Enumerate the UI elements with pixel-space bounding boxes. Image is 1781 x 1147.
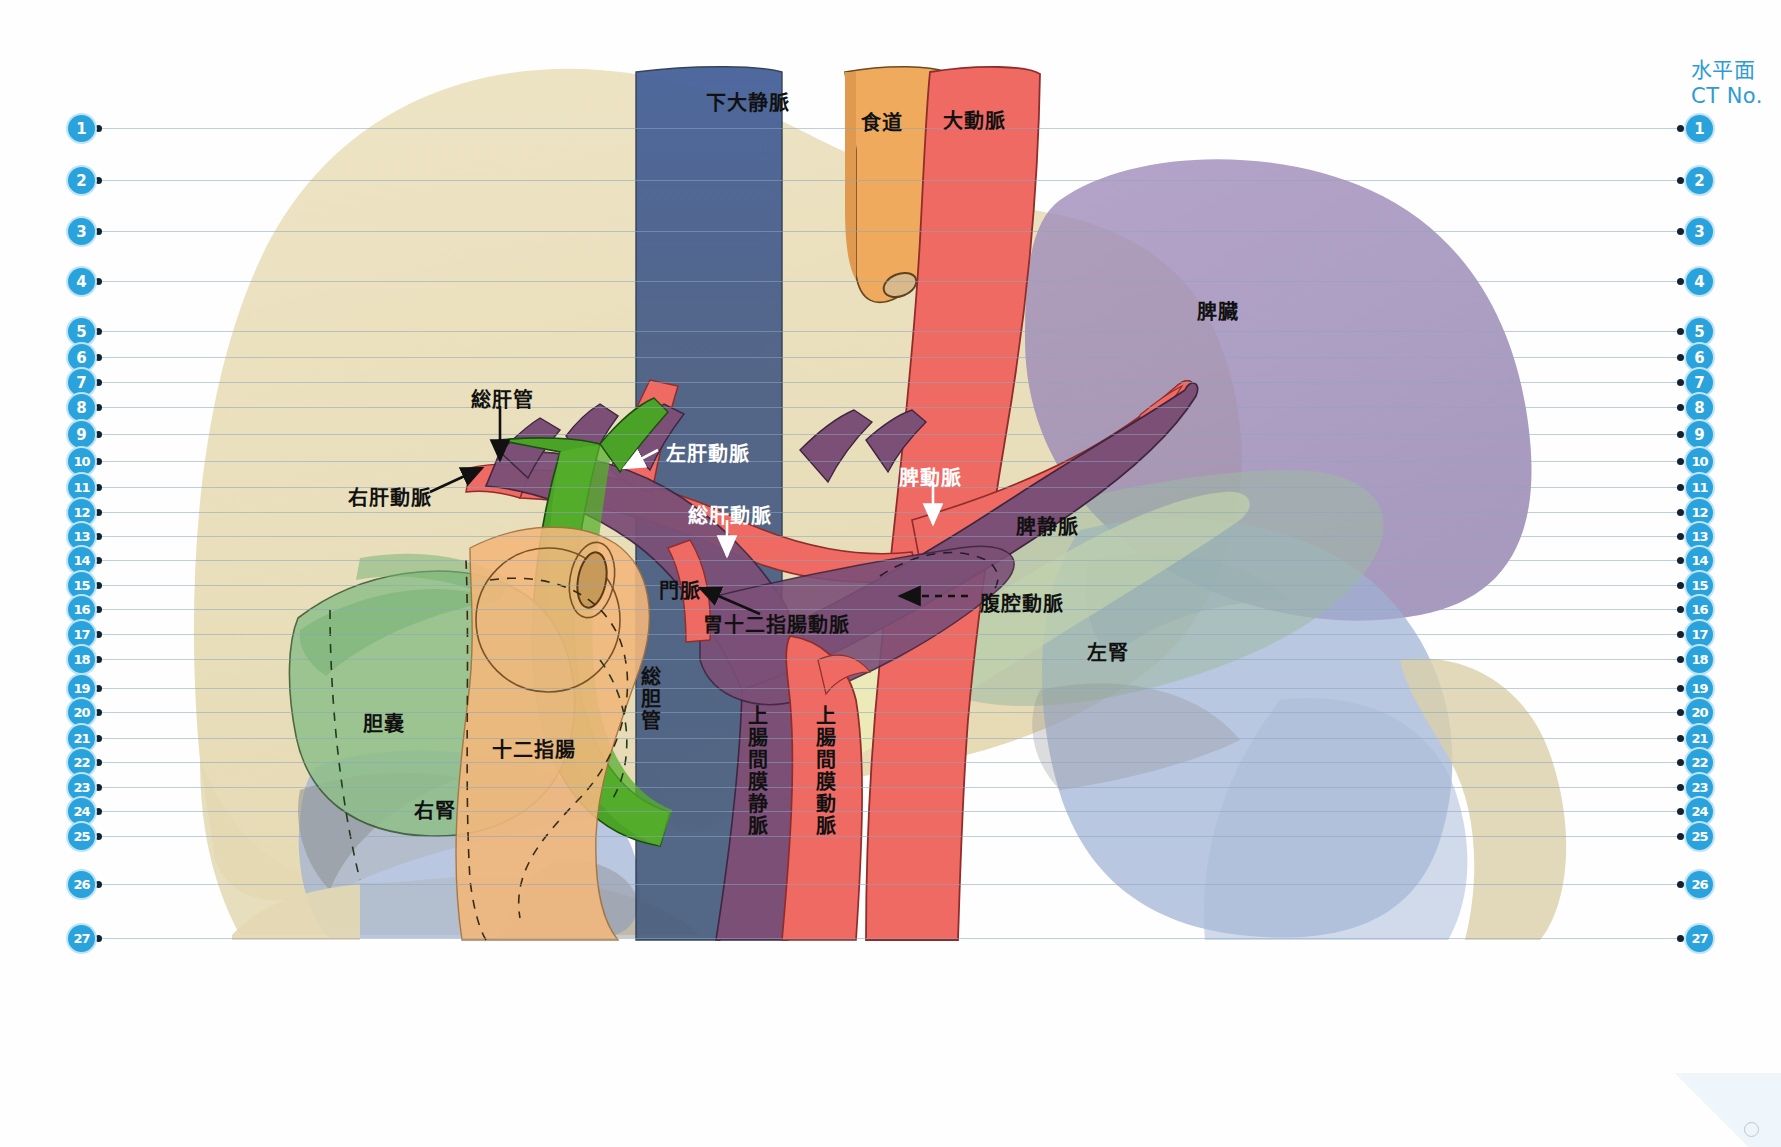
page-corner-fold <box>1661 1073 1781 1147</box>
ct-slice-number-left-1[interactable]: 1 <box>68 115 95 142</box>
ct-slice-number-right-10[interactable]: 10 <box>1686 448 1713 475</box>
label-duodenum: 十二指腸 <box>492 734 576 763</box>
ct-slice-line <box>100 738 1678 739</box>
ct-slice-line <box>100 382 1678 383</box>
ct-slice-number-left-24[interactable]: 24 <box>68 798 95 825</box>
ct-slice-number-right-2[interactable]: 2 <box>1686 167 1713 194</box>
ct-slice-number-right-1[interactable]: 1 <box>1686 115 1713 142</box>
ct-slice-number-right-6[interactable]: 6 <box>1686 344 1713 371</box>
ct-slice-number-left-21[interactable]: 21 <box>68 725 95 752</box>
ct-slice-dot-right <box>1677 582 1684 589</box>
anatomy-illustration <box>0 0 1781 1147</box>
ct-slice-number-left-18[interactable]: 18 <box>68 646 95 673</box>
ct-slice-number-right-4[interactable]: 4 <box>1686 268 1713 295</box>
ct-slice-dot-left <box>95 177 102 184</box>
ct-slice-line <box>100 811 1678 812</box>
ct-slice-line <box>100 836 1678 837</box>
ct-slice-line <box>100 407 1678 408</box>
ct-slice-number-right-16[interactable]: 16 <box>1686 596 1713 623</box>
ct-slice-number-left-5[interactable]: 5 <box>68 318 95 345</box>
ct-slice-number-right-9[interactable]: 9 <box>1686 421 1713 448</box>
ct-slice-dot-left <box>95 228 102 235</box>
ct-slice-number-right-23[interactable]: 23 <box>1686 774 1713 801</box>
ct-slice-dot-right <box>1677 328 1684 335</box>
ct-slice-number-left-15[interactable]: 15 <box>68 572 95 599</box>
ct-slice-number-left-7[interactable]: 7 <box>68 369 95 396</box>
ct-slice-number-left-19[interactable]: 19 <box>68 675 95 702</box>
label-common-hepatic-duct: 総肝管 <box>471 384 534 413</box>
ct-slice-number-right-22[interactable]: 22 <box>1686 749 1713 776</box>
ct-slice-number-right-12[interactable]: 12 <box>1686 499 1713 526</box>
ct-slice-number-right-25[interactable]: 25 <box>1686 823 1713 850</box>
ct-slice-number-left-23[interactable]: 23 <box>68 774 95 801</box>
ct-slice-dot-left <box>95 125 102 132</box>
ct-slice-number-left-10[interactable]: 10 <box>68 448 95 475</box>
ct-slice-number-right-14[interactable]: 14 <box>1686 547 1713 574</box>
ct-slice-line <box>100 487 1678 488</box>
corner-circle-mark <box>1744 1122 1759 1137</box>
ct-slice-dot-right <box>1677 709 1684 716</box>
ct-slice-dot-left <box>95 759 102 766</box>
ct-slice-number-left-27[interactable]: 27 <box>68 925 95 952</box>
ct-slice-number-left-2[interactable]: 2 <box>68 167 95 194</box>
ct-slice-number-right-19[interactable]: 19 <box>1686 675 1713 702</box>
ct-slice-dot-left <box>95 606 102 613</box>
ct-slice-number-right-11[interactable]: 11 <box>1686 474 1713 501</box>
ct-slice-number-left-17[interactable]: 17 <box>68 621 95 648</box>
ct-slice-line <box>100 712 1678 713</box>
ct-slice-number-right-26[interactable]: 26 <box>1686 871 1713 898</box>
ct-slice-number-left-8[interactable]: 8 <box>68 394 95 421</box>
ct-slice-number-left-4[interactable]: 4 <box>68 268 95 295</box>
ct-slice-dot-right <box>1677 735 1684 742</box>
label-common-bile-duct: 総胆管 <box>635 666 664 732</box>
ct-slice-number-right-13[interactable]: 13 <box>1686 523 1713 550</box>
label-celiac-artery: 腹腔動脈 <box>980 588 1064 617</box>
ct-slice-dot-right <box>1677 458 1684 465</box>
ct-slice-number-left-22[interactable]: 22 <box>68 749 95 776</box>
label-left-hepatic-artery: 左肝動脈 <box>666 438 750 467</box>
ct-slice-dot-right <box>1677 784 1684 791</box>
label-portal-vein: 門脈 <box>659 575 701 604</box>
ct-slice-dot-left <box>95 328 102 335</box>
ct-slice-number-left-14[interactable]: 14 <box>68 547 95 574</box>
ct-slice-number-left-6[interactable]: 6 <box>68 344 95 371</box>
ct-slice-number-right-27[interactable]: 27 <box>1686 925 1713 952</box>
ct-slice-number-left-16[interactable]: 16 <box>68 596 95 623</box>
ct-slice-number-right-18[interactable]: 18 <box>1686 646 1713 673</box>
ct-slice-number-right-15[interactable]: 15 <box>1686 572 1713 599</box>
ct-slice-number-right-17[interactable]: 17 <box>1686 621 1713 648</box>
ct-slice-dot-left <box>95 833 102 840</box>
ct-slice-number-right-21[interactable]: 21 <box>1686 725 1713 752</box>
ct-slice-dot-right <box>1677 177 1684 184</box>
label-common-hepatic-artery: 総肝動脈 <box>688 500 772 529</box>
ct-slice-dot-right <box>1677 354 1684 361</box>
ct-slice-dot-left <box>95 685 102 692</box>
ct-slice-number-left-3[interactable]: 3 <box>68 218 95 245</box>
ct-slice-dot-right <box>1677 379 1684 386</box>
ct-slice-dot-left <box>95 935 102 942</box>
ct-slice-line <box>100 281 1678 282</box>
ct-slice-number-right-20[interactable]: 20 <box>1686 699 1713 726</box>
ct-slice-number-right-8[interactable]: 8 <box>1686 394 1713 421</box>
ct-slice-number-right-7[interactable]: 7 <box>1686 369 1713 396</box>
ct-slice-line <box>100 560 1678 561</box>
ct-slice-number-left-20[interactable]: 20 <box>68 699 95 726</box>
ct-slice-dot-right <box>1677 808 1684 815</box>
ct-slice-dot-left <box>95 709 102 716</box>
ct-slice-number-left-11[interactable]: 11 <box>68 474 95 501</box>
ct-slice-number-right-24[interactable]: 24 <box>1686 798 1713 825</box>
ct-slice-number-left-25[interactable]: 25 <box>68 823 95 850</box>
ct-slice-number-right-3[interactable]: 3 <box>1686 218 1713 245</box>
ct-slice-number-right-5[interactable]: 5 <box>1686 318 1713 345</box>
ct-slice-number-left-12[interactable]: 12 <box>68 499 95 526</box>
ct-slice-number-left-26[interactable]: 26 <box>68 871 95 898</box>
label-left-kidney: 左腎 <box>1087 637 1129 666</box>
ct-slice-dot-left <box>95 582 102 589</box>
ct-slice-number-left-9[interactable]: 9 <box>68 421 95 448</box>
ct-slice-dot-right <box>1677 631 1684 638</box>
ct-slice-number-left-13[interactable]: 13 <box>68 523 95 550</box>
ct-slice-line <box>100 357 1678 358</box>
ct-slice-line <box>100 938 1678 939</box>
label-superior-mesenteric-artery: 上腸間膜動脈 <box>810 705 839 837</box>
ct-slice-line <box>100 512 1678 513</box>
